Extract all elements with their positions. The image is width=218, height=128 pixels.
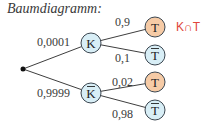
edge-Kbar-probability: 0,9999 (37, 86, 70, 100)
intersection-annotation: K∩T (176, 20, 201, 34)
node-K-Tbar-label: T (151, 48, 159, 63)
tree-diagram: Baumdiagramm: K0,0001K0,9999T0,9T0,1T0,0… (0, 0, 218, 128)
branch-K-0 (101, 29, 146, 40)
edge-K-probability: 0,0001 (37, 35, 70, 49)
edge-Kbar-Tbar-probability: 0,98 (112, 107, 133, 121)
node-Kbar-Tbar-label: T (151, 103, 159, 118)
root-node-dot (21, 67, 26, 72)
edge-Kbar-T-probability: 0,02 (112, 75, 133, 89)
node-K-T-label: T (151, 20, 159, 35)
node-Kbar-label: K (86, 86, 96, 101)
node-Kbar-T-label: T (151, 75, 159, 90)
branch-root-K (23, 47, 82, 69)
edge-K-T-probability: 0,9 (115, 15, 130, 29)
node-K-label: K (86, 36, 96, 51)
edge-K-Tbar-probability: 0,1 (115, 51, 130, 65)
tree-diagram-canvas: K0,0001K0,9999T0,9T0,1T0,02T0,98K∩T (0, 0, 218, 128)
branch-Kbar-3 (101, 96, 146, 108)
